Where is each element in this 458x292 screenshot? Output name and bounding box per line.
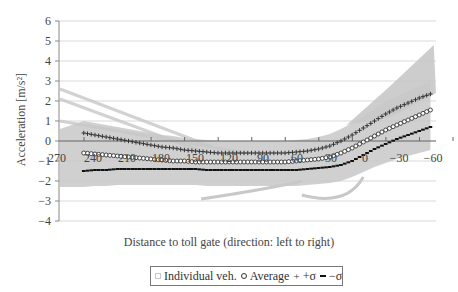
svg-text:−3: −3 xyxy=(38,194,51,208)
svg-text:4: 4 xyxy=(45,54,51,68)
svg-text:−30: −30 xyxy=(390,151,409,165)
open-circle-marker-icon xyxy=(241,273,247,279)
svg-text:60: 60 xyxy=(291,151,303,165)
legend: Individual veh. Average + +σ −σ xyxy=(150,266,343,286)
y-tick-labels: 6543210−1−2−3−4 xyxy=(38,14,51,228)
x-axis-title: Distance to toll gate (direction: left t… xyxy=(0,235,458,250)
svg-text:−2: −2 xyxy=(38,174,51,188)
svg-text:2: 2 xyxy=(45,94,51,108)
svg-text:120: 120 xyxy=(220,151,238,165)
legend-label: Average xyxy=(250,269,290,284)
svg-text:1: 1 xyxy=(45,114,51,128)
svg-text:0: 0 xyxy=(45,134,51,148)
svg-text:210: 210 xyxy=(118,151,136,165)
legend-item-minus-sigma: −σ xyxy=(320,269,342,284)
legend-label: −σ xyxy=(329,269,342,284)
svg-text:180: 180 xyxy=(152,151,170,165)
individual-vehicle-traces xyxy=(60,45,436,199)
legend-item-average: Average xyxy=(241,269,290,284)
legend-item-individual: Individual veh. xyxy=(155,269,237,284)
open-square-marker-icon xyxy=(155,273,161,279)
y-axis-title: Acceleration [m/s²] xyxy=(14,65,29,175)
svg-text:6: 6 xyxy=(45,14,51,28)
svg-text:240: 240 xyxy=(84,151,102,165)
svg-text:30: 30 xyxy=(325,151,337,165)
svg-text:−4: −4 xyxy=(38,214,51,228)
svg-text:90: 90 xyxy=(257,151,269,165)
legend-item-plus-sigma: + +σ xyxy=(293,269,315,284)
legend-label: +σ xyxy=(303,269,316,284)
legend-label: Individual veh. xyxy=(164,269,237,284)
svg-text:0: 0 xyxy=(362,151,368,165)
svg-text:150: 150 xyxy=(186,151,204,165)
svg-text:−60: −60 xyxy=(424,151,443,165)
svg-text:270: 270 xyxy=(48,151,66,165)
y-axis-title-text: Acceleration [m/s²] xyxy=(14,73,28,166)
dash-marker-icon xyxy=(320,275,326,277)
svg-text:5: 5 xyxy=(45,34,51,48)
plus-marker-icon: + xyxy=(293,270,299,282)
svg-text:3: 3 xyxy=(45,74,51,88)
